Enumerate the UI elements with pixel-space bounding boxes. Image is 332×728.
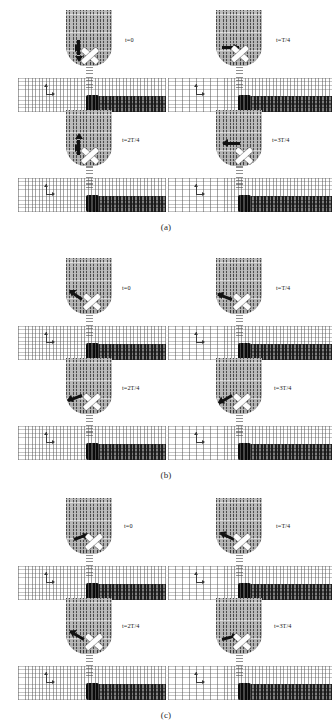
panel-a: t=0 t=T/4: [0, 0, 332, 240]
coordinate-axis-icon: [42, 184, 54, 197]
vortex-core-marker: [232, 632, 251, 651]
time-label: t=2T/4: [122, 622, 140, 629]
time-label: t=3T/4: [272, 136, 290, 143]
vector-field-strip: [168, 666, 332, 700]
time-label: t=0: [125, 36, 134, 43]
time-label: t=2T/4: [122, 136, 140, 143]
panel-caption-c: (c): [0, 710, 332, 720]
snapshot-b-bottom-right: t=3T/4: [166, 348, 332, 468]
coordinate-axis-icon: [192, 672, 204, 685]
strip-dark-region: [240, 684, 332, 700]
panel-caption-b: (b): [0, 470, 332, 480]
coordinate-axis-icon: [192, 572, 204, 585]
strip-dark-region: [88, 684, 166, 700]
strip-core-region: [238, 683, 251, 700]
snapshot-c-bottom-left: t=2T/4: [0, 588, 166, 708]
coordinate-axis-icon: [42, 332, 54, 345]
coordinate-axis-icon: [42, 432, 54, 445]
time-label: t=0: [124, 522, 133, 529]
vortex-core-marker: [232, 392, 251, 411]
strip-dark-region: [88, 444, 166, 460]
time-label: t=T/4: [276, 36, 290, 43]
strip-dark-region: [240, 444, 332, 460]
strip-core-region: [238, 443, 251, 460]
strip-core-region: [86, 683, 99, 700]
time-label: t=3T/4: [274, 384, 292, 391]
vector-field-strip: [168, 178, 332, 212]
snapshot-a-bottom-right: t=3T/4: [166, 100, 332, 220]
vortex-core-marker: [80, 146, 99, 165]
vector-field-strip: [168, 426, 332, 460]
strip-dark-region: [240, 196, 332, 212]
vortex-core-marker: [82, 392, 101, 411]
vortex-core-marker: [80, 46, 99, 65]
coordinate-axis-icon: [192, 84, 204, 97]
vortex-core-marker: [84, 632, 103, 651]
coordinate-axis-icon: [42, 672, 54, 685]
direction-arrow: [223, 142, 240, 145]
snapshot-a-bottom-left: t=2T/4: [0, 100, 166, 220]
time-label: t=0: [122, 284, 131, 291]
vortex-core-marker: [232, 292, 251, 311]
time-label: t=3T/4: [274, 622, 292, 629]
figure-root: t=0 t=T/4: [0, 0, 332, 728]
snapshot-b-bottom-left: t=2T/4: [0, 348, 166, 468]
panel-b: t=0 t=T/4: [0, 248, 332, 488]
vortex-core-marker: [232, 532, 251, 551]
strip-dark-region: [88, 196, 166, 212]
vortex-core-marker: [230, 44, 249, 63]
vortex-core-marker: [234, 146, 253, 165]
coordinate-axis-icon: [192, 332, 204, 345]
panel-caption-a: (a): [0, 222, 332, 232]
time-label: t=T/4: [276, 522, 290, 529]
coordinate-axis-icon: [192, 184, 204, 197]
time-label: t=2T/4: [122, 384, 140, 391]
strip-core-region: [86, 195, 99, 212]
vortex-core-marker: [82, 292, 101, 311]
coordinate-axis-icon: [192, 432, 204, 445]
vortex-core-marker: [84, 532, 103, 551]
coordinate-axis-icon: [42, 572, 54, 585]
strip-core-region: [86, 443, 99, 460]
coordinate-axis-icon: [42, 84, 54, 97]
time-label: t=T/4: [276, 284, 290, 291]
snapshot-c-bottom-right: t=3T/4: [166, 588, 332, 708]
strip-core-region: [238, 195, 251, 212]
panel-c: t=0 t=T/4: [0, 488, 332, 728]
